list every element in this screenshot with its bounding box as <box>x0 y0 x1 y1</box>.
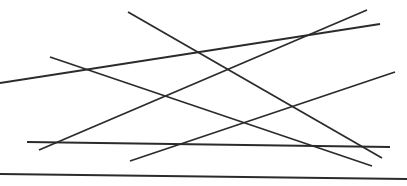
line-drawing-svg <box>0 0 407 186</box>
figure-canvas <box>0 0 407 186</box>
